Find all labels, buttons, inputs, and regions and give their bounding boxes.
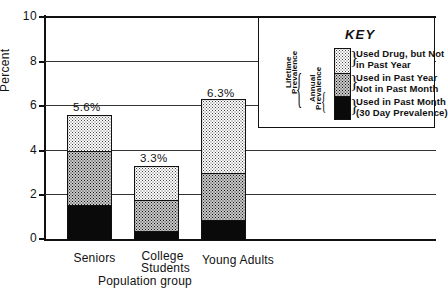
bar-segment-young-adults-past-month [202, 220, 245, 240]
legend-entry-2-line2: Not in Past Month [356, 84, 438, 95]
bar-segment-young-adults-annual [202, 173, 245, 220]
bar-young-adults [201, 99, 246, 239]
y-tick-label-8: 8 [11, 55, 37, 67]
bar-segment-young-adults-lifetime [202, 100, 245, 173]
y-tick-label-0: 0 [11, 232, 37, 244]
lifetime-prevalence-label-line2: Prevalence [291, 40, 300, 104]
bar-segment-seniors-annual [68, 151, 111, 204]
legend-swatch-past-month [335, 96, 350, 119]
y-tick-label-4: 4 [11, 144, 37, 156]
legend-swatch-lifetime [335, 49, 350, 73]
bar-segment-seniors-past-month [68, 205, 111, 241]
bar-college-students [134, 166, 179, 239]
legend-entry-1-line2: in Past Year [356, 60, 411, 71]
bar-segment-college-students-annual [135, 200, 178, 231]
bar-seniors [67, 115, 112, 239]
x-label-young-adults: Young Adults [178, 254, 298, 266]
bar-value-young-adults: 6.3% [207, 87, 234, 99]
legend-key-box: KEY { Lifetime Prevalence { Annual Preva… [258, 17, 435, 128]
legend-entry-2-line1: Used in Past Year [356, 73, 437, 84]
y-axis-title: Percent [0, 49, 12, 92]
y-tick-label-6: 6 [11, 99, 37, 111]
legend-swatch-column [334, 48, 351, 120]
legend-entry-3-line2: (30 Day Prevalence) [356, 108, 448, 119]
bar-segment-college-students-past-month [135, 231, 178, 240]
y-tick-label-2: 2 [11, 188, 37, 200]
legend-entry-1-line1: Used Drug, but Not [356, 49, 444, 60]
bar-value-college-students: 3.3% [140, 152, 167, 164]
annual-prevalence-label-line2: Prevalence [315, 58, 324, 118]
bar-segment-seniors-lifetime [68, 116, 111, 152]
legend-entry-3-line1: Used in Past Month [356, 97, 446, 108]
x-axis-title: Population group [98, 274, 192, 288]
legend-title: KEY [345, 27, 375, 42]
legend-swatch-annual [335, 73, 350, 96]
bar-value-seniors: 5.6% [73, 101, 100, 113]
bar-segment-college-students-lifetime [135, 167, 178, 200]
y-tick-label-10: 10 [11, 10, 37, 22]
